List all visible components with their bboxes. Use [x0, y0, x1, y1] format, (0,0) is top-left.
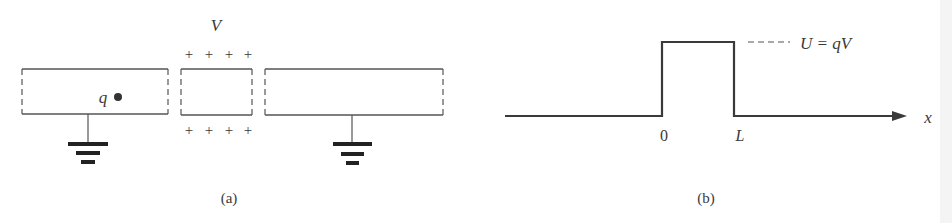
right-tube — [265, 69, 443, 115]
voltage-label: V — [211, 16, 224, 35]
middle-tube — [181, 69, 252, 115]
charge-dot-icon — [114, 93, 122, 101]
caption-a: (a) — [221, 190, 238, 207]
plus-sign: + — [185, 122, 193, 138]
plus-sign: + — [225, 46, 233, 62]
x-axis-arrow-icon — [892, 111, 907, 121]
left-tube — [22, 69, 168, 114]
plus-sign: + — [225, 122, 233, 138]
plus-sign: + — [244, 122, 252, 138]
tick-L-label: L — [735, 127, 745, 144]
x-axis-label: x — [923, 108, 932, 127]
figure-a: V + + + + + + + + q — [22, 16, 443, 207]
page-edge-band — [940, 0, 952, 223]
figure-b: U = qV x 0 L (b) — [505, 34, 932, 207]
ground-icon — [333, 115, 372, 165]
tick-zero-label: 0 — [660, 127, 668, 144]
plus-sign: + — [205, 122, 213, 138]
figure-canvas: V + + + + + + + + q — [0, 0, 952, 223]
potential-barrier-line — [505, 42, 895, 116]
plus-sign: + — [244, 46, 252, 62]
ground-icon — [68, 114, 108, 164]
potential-label: U = qV — [800, 34, 854, 53]
caption-b: (b) — [697, 190, 715, 207]
plus-sign: + — [185, 46, 193, 62]
plus-signs-top: + + + + — [185, 46, 252, 62]
charge-label: q — [99, 88, 108, 107]
plus-signs-bottom: + + + + — [185, 122, 252, 138]
plus-sign: + — [205, 46, 213, 62]
